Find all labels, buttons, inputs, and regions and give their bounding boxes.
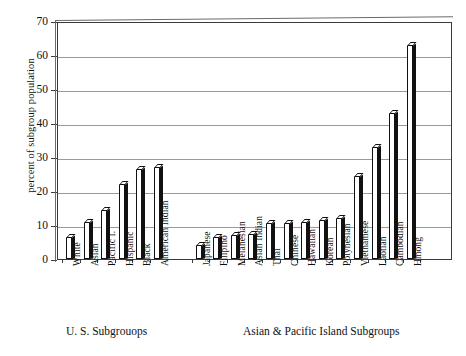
y-axis-label-10: 10	[20, 220, 48, 232]
bar-face	[407, 45, 413, 259]
x-axis-label-thai: Thai	[273, 248, 283, 266]
gridline-60	[58, 57, 451, 58]
x-axis-label-pacific-i: Pacific I.	[108, 231, 118, 266]
y-axis-label-20: 20	[20, 186, 48, 198]
bar-face	[319, 220, 325, 259]
x-axis-label-black: Black	[143, 243, 153, 266]
x-axis-label-filipino: Filipino	[220, 235, 230, 266]
y-axis-label-70: 70	[20, 16, 48, 28]
x-axis-label-hawaiian: Hawaiian	[308, 229, 318, 266]
gridline-50	[58, 91, 451, 92]
bar-face	[231, 235, 237, 259]
y-axis-label-50: 50	[20, 84, 48, 96]
x-axis-label-laotian: Laotian	[379, 236, 389, 266]
bar-face	[196, 245, 202, 259]
x-axis-label-japanese: Japanese	[203, 231, 213, 266]
y-axis-tick-0	[51, 260, 57, 261]
bar-face	[372, 147, 378, 259]
y-axis-label-0: 0	[20, 254, 48, 266]
bar-chart-figure: percent of subgroup population 010203040…	[0, 0, 466, 356]
x-axis-tick-6	[192, 259, 193, 263]
x-axis-tick-0	[62, 259, 63, 263]
x-axis-label-asian-indian: Asian Indian	[255, 216, 265, 266]
x-axis-label-cambodian: Cambodian	[396, 221, 406, 266]
x-axis-label-white: White	[73, 242, 83, 266]
x-axis-label-vietnamese: Vietnamese	[361, 221, 371, 266]
y-axis-label-40: 40	[20, 118, 48, 130]
bar-hmong	[407, 45, 416, 259]
x-axis-label-chinese: Chinese	[291, 235, 301, 266]
x-axis-label-polynesian: Polynesian	[343, 223, 353, 266]
y-axis-label-30: 30	[20, 152, 48, 164]
x-axis-label-korean: Korean	[326, 237, 336, 266]
group-caption-asian-pacific-subgroups: Asian & Pacific Island Subgroups	[243, 325, 400, 337]
group-caption-us-subgroups: U. S. Subgrouops	[66, 325, 147, 337]
x-axis-label-melanesian: Melanesian	[238, 221, 248, 266]
bar-face	[119, 184, 125, 259]
bar-face	[284, 223, 290, 259]
x-axis-label-asian: Asian	[91, 243, 101, 266]
x-axis-label-hispanic: Hispanic	[126, 231, 136, 266]
bar-face	[84, 222, 90, 259]
x-axis-label-hmong: Hmong	[414, 237, 424, 266]
y-axis-label-60: 60	[20, 50, 48, 62]
plot-frame-top-edge	[56, 16, 453, 24]
x-axis-label-american-indian: American Indian	[161, 200, 171, 266]
